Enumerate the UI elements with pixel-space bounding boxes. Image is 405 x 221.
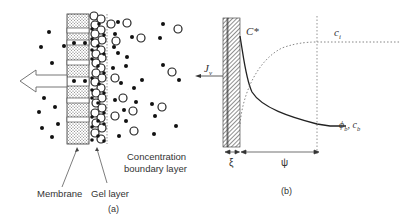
boundary-layer-macromolecules bbox=[107, 19, 182, 135]
c-i-subscript: i bbox=[339, 33, 341, 41]
gel-layer-pointer bbox=[97, 149, 107, 183]
membrane bbox=[67, 14, 89, 144]
c-b-subscript: b bbox=[357, 125, 360, 132]
psi-label: ψ bbox=[281, 157, 288, 168]
xi-dimension bbox=[225, 150, 240, 154]
flux-label: Jv bbox=[204, 63, 212, 79]
membrane-label: Membrane bbox=[37, 188, 82, 199]
xi-label: ξ bbox=[229, 157, 233, 168]
membrane-pointer bbox=[62, 149, 77, 187]
psi-dimension bbox=[241, 150, 319, 154]
gel-layer-label: Gel layer bbox=[91, 188, 129, 199]
c-i-label: ci bbox=[334, 27, 341, 43]
panel-b-caption: (b) bbox=[281, 186, 292, 197]
permeate-flow-arrow bbox=[20, 70, 67, 92]
bulk-label: ϕb, cb bbox=[339, 119, 360, 134]
c-star-label: C* bbox=[246, 26, 259, 37]
boundary-layer-label-line1: Concentration bbox=[127, 151, 186, 162]
panel-b bbox=[195, 16, 400, 154]
boundary-layer-solutes bbox=[111, 20, 181, 138]
gel-layer-wall bbox=[228, 18, 240, 147]
boundary-layer-label-line2: boundary layer bbox=[124, 163, 187, 174]
bulk-sep: , c bbox=[347, 119, 356, 130]
panel-a-caption: (a) bbox=[108, 204, 119, 215]
flux-subscript: v bbox=[209, 69, 212, 77]
concentration-profile-curve bbox=[240, 36, 346, 126]
cell-concentration-curve bbox=[240, 42, 400, 124]
